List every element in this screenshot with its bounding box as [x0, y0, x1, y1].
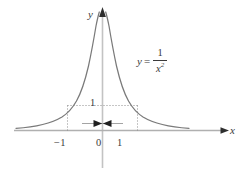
- plot-canvas: [0, 0, 244, 178]
- equation-numerator: 1: [155, 48, 166, 60]
- equation-denominator: x2: [153, 61, 167, 74]
- x-axis-label: x: [230, 125, 235, 136]
- equation-fraction: 1 x2: [153, 48, 167, 74]
- x-tick-label-one: 1: [117, 138, 122, 149]
- equation-equals-sign: =: [144, 55, 150, 67]
- y-axis-arrowhead: [99, 7, 106, 17]
- interval-arrow-right-pointing: [94, 120, 103, 127]
- y-tick-label-one: 1: [90, 98, 95, 109]
- equation-denominator-exponent: 2: [161, 61, 165, 69]
- y-axis-label: y: [88, 9, 93, 20]
- curve-equation-label: y = 1 x2: [137, 48, 167, 74]
- x-axis-arrowhead: [221, 127, 230, 133]
- curve-left-branch: [16, 12, 99, 128]
- x-tick-label-zero: 0: [96, 138, 101, 149]
- interval-arrow-left-pointing: [103, 120, 112, 127]
- equation-left-side: y: [137, 55, 142, 67]
- x-tick-label-negative-one: −1: [54, 138, 66, 149]
- function-graph-figure: y x −1 0 1 1 y = 1 x2: [0, 0, 244, 178]
